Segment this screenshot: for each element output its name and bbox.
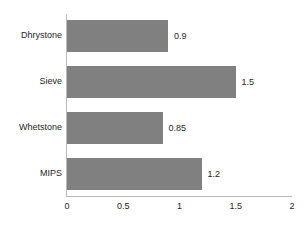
bar-dhrystone[interactable] xyxy=(67,20,168,52)
bar-mips[interactable] xyxy=(67,158,202,190)
x-tick-label-05: 0.5 xyxy=(108,202,138,211)
bar-value-whetstone: 0.85 xyxy=(169,124,187,133)
category-label-sieve: Sieve xyxy=(0,77,62,86)
bar-row: 0.9 xyxy=(67,20,292,52)
category-label-dhrystone: Dhrystone xyxy=(0,31,62,40)
bar-value-dhrystone: 0.9 xyxy=(174,32,187,41)
bar-value-sieve: 1.5 xyxy=(242,78,255,87)
x-axis-line xyxy=(66,196,292,197)
category-label-whetstone: Whetstone xyxy=(0,123,62,132)
category-axis-labels: Dhrystone Sieve Whetstone MIPS xyxy=(0,14,62,196)
bar-row: 0.85 xyxy=(67,112,292,144)
x-tick-label-2: 2 xyxy=(277,202,306,211)
bar-row: 1.2 xyxy=(67,158,292,190)
bar-sieve[interactable] xyxy=(67,66,236,98)
plot-area: 0.9 1.5 0.85 1.2 xyxy=(67,14,292,196)
category-label-mips: MIPS xyxy=(0,169,62,178)
x-tick-label-1: 1 xyxy=(165,202,195,211)
bar-chart: Dhrystone Sieve Whetstone MIPS 0.9 1.5 0… xyxy=(0,0,306,237)
x-tick-label-0: 0 xyxy=(52,202,82,211)
bar-whetstone[interactable] xyxy=(67,112,163,144)
x-tick-label-15: 1.5 xyxy=(221,202,251,211)
bar-row: 1.5 xyxy=(67,66,292,98)
bar-value-mips: 1.2 xyxy=(208,170,221,179)
